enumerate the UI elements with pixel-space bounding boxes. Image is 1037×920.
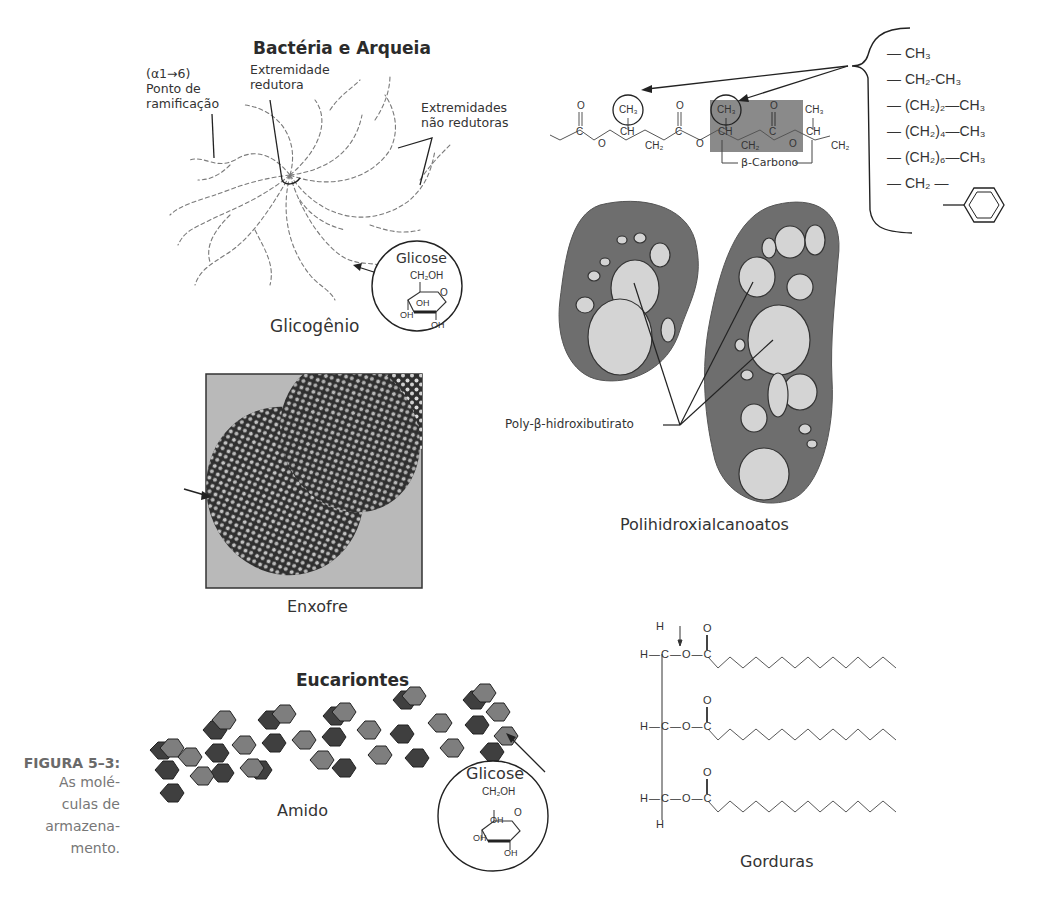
caption-line-4: mento. bbox=[8, 837, 120, 859]
fat-glycerol-row-3: H—C—O—C bbox=[640, 792, 712, 804]
caption-line-3: armazena- bbox=[8, 815, 120, 837]
fat-structure bbox=[0, 0, 1037, 920]
fat-carbonyl-o-3: O bbox=[703, 766, 712, 778]
caption-line-2: culas de bbox=[8, 793, 120, 815]
figure-caption: FIGURA 5–3: As molé- culas de armazena- … bbox=[8, 755, 120, 859]
fat-glycerol-row-2: H—C—O—C bbox=[640, 720, 712, 732]
fat-carbonyl-o-1: O bbox=[703, 622, 712, 634]
fat-carbonyl-o-2: O bbox=[703, 694, 712, 706]
caption-line-1: As molé- bbox=[8, 771, 120, 793]
fat-bottom-h: H bbox=[656, 818, 664, 830]
fats-label: Gorduras bbox=[740, 852, 814, 871]
fat-glycerol-row-1: H—C—O—C bbox=[640, 648, 712, 660]
fat-top-h: H bbox=[656, 620, 664, 632]
figure-number: FIGURA 5–3: bbox=[8, 755, 120, 771]
